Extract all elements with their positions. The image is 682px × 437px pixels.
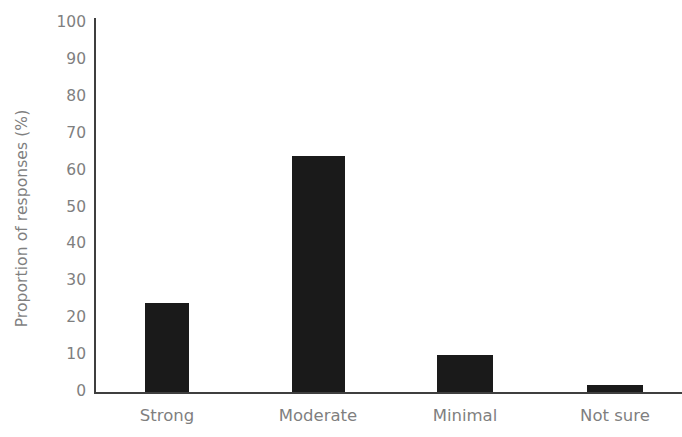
bar-not-sure [587, 385, 643, 392]
bar-moderate [292, 156, 345, 392]
x-axis-tick-label: Minimal [433, 405, 498, 426]
y-axis-title: Proportion of responses (%) [8, 0, 36, 437]
y-axis-tick-label: 0 [34, 384, 86, 400]
x-axis-tick-label: Not sure [580, 405, 650, 426]
y-axis-tick-label: 80 [34, 89, 86, 105]
bar-chart-figure: Proportion of responses (%) 100908070605… [0, 0, 682, 437]
y-axis-line [94, 18, 96, 392]
bar-strong [145, 303, 189, 392]
y-axis-tick-label: 30 [34, 274, 86, 290]
x-axis-tick-label: Moderate [279, 405, 357, 426]
bar-minimal [437, 355, 493, 392]
y-axis-tick-label: 10 [34, 347, 86, 363]
y-axis-tick-label: 100 [34, 15, 86, 31]
x-axis-tick-label: Strong [140, 405, 194, 426]
y-axis-tick-label: 20 [34, 310, 86, 326]
y-axis-tick-label: 60 [34, 163, 86, 179]
x-axis-tick-label-group: StrongModerateMinimalNot sure [94, 405, 682, 433]
y-axis-tick-label: 70 [34, 126, 86, 142]
y-axis-tick-label-group: 1009080706050403020100 [34, 0, 86, 437]
plot-area [94, 23, 682, 392]
x-axis-line [94, 392, 682, 394]
y-axis-tick-label: 40 [34, 237, 86, 253]
y-axis-tick-label: 50 [34, 200, 86, 216]
y-axis-tick-label: 90 [34, 52, 86, 68]
